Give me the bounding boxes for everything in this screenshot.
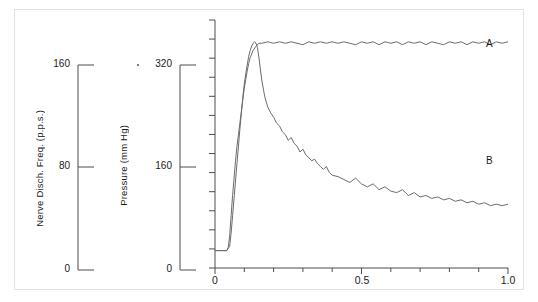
middle-axis-tick-0: 0 xyxy=(146,263,172,274)
x-axis-tick-0: 0 xyxy=(205,274,225,286)
figure-container: Nerve Disch. Freq. (p.p.s.) 160 80 0 Pre… xyxy=(0,0,538,302)
plot-y-minor-ticks xyxy=(209,20,215,268)
left-axis-tick-0: 0 xyxy=(46,263,70,274)
curve-b-line xyxy=(215,42,508,251)
scan-artifact-dot xyxy=(137,64,139,66)
x-axis-tick-05: 0.5 xyxy=(350,274,374,286)
middle-axis-line xyxy=(174,58,198,278)
plot-area xyxy=(205,14,525,276)
left-axis-tick-80: 80 xyxy=(46,160,70,171)
curve-b-label: B xyxy=(486,155,493,166)
left-axis-line xyxy=(72,58,96,278)
middle-axis-tick-320: 320 xyxy=(146,58,172,69)
left-axis-title: Nerve Disch. Freq. (p.p.s.) xyxy=(34,110,45,227)
curve-a-label: A xyxy=(486,38,493,49)
middle-axis-tick-160: 160 xyxy=(146,160,172,171)
curve-a-line xyxy=(215,42,508,251)
left-axis-tick-160: 160 xyxy=(46,58,70,69)
middle-axis-title: Pressure (mm Hg) xyxy=(118,125,129,206)
x-axis-tick-10: 1.0 xyxy=(496,274,520,286)
